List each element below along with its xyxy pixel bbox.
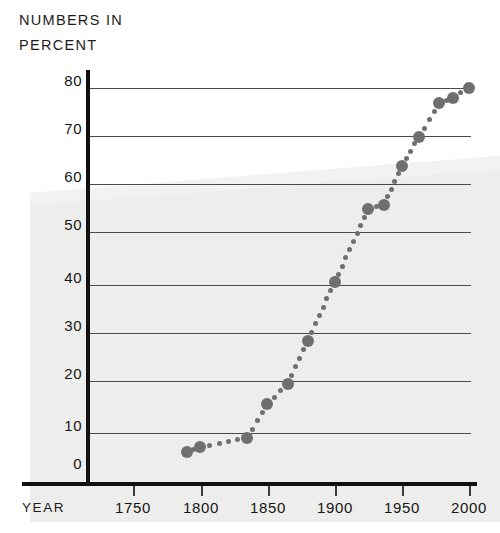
data-point bbox=[378, 199, 390, 211]
data-point bbox=[463, 82, 475, 94]
series-connector-dot bbox=[392, 179, 397, 184]
xtick-label-1850: 1850 bbox=[240, 499, 296, 516]
series-connector-dot bbox=[297, 356, 302, 361]
data-point bbox=[181, 446, 193, 458]
gridline-60 bbox=[88, 184, 471, 185]
xtick-label-1750: 1750 bbox=[105, 499, 161, 516]
data-point bbox=[261, 398, 273, 410]
series-connector-dot bbox=[347, 247, 352, 252]
xtick-label-2000: 2000 bbox=[441, 499, 497, 516]
series-connector-dot bbox=[432, 109, 437, 114]
series-connector-dot bbox=[458, 90, 463, 95]
xtick-2000 bbox=[469, 486, 471, 496]
data-point bbox=[413, 131, 425, 143]
xtick-1750 bbox=[133, 486, 135, 496]
ytick-label-20: 20 bbox=[48, 365, 82, 382]
xtick-1950 bbox=[402, 486, 404, 496]
series-connector-dot bbox=[260, 410, 265, 415]
ytick-label-30: 30 bbox=[48, 317, 82, 334]
gridline-30 bbox=[88, 333, 471, 334]
series-connector-dot bbox=[408, 149, 413, 154]
series-connector-dot bbox=[278, 388, 283, 393]
series-connector-dot bbox=[351, 239, 356, 244]
chart-page: NUMBERS IN PERCENT 80 70 60 50 40 30 20 … bbox=[0, 0, 500, 533]
series-connector-dot bbox=[207, 443, 212, 448]
series-connector-dot bbox=[355, 231, 360, 236]
plot-area: 80 70 60 50 40 30 20 10 0 1750 1800 1850… bbox=[0, 0, 500, 533]
gridline-20 bbox=[88, 381, 471, 382]
x-axis-title: YEAR bbox=[22, 500, 65, 515]
data-point bbox=[282, 378, 294, 390]
series-connector-dot bbox=[340, 264, 345, 269]
ytick-label-70: 70 bbox=[48, 120, 82, 137]
ytick-label-10: 10 bbox=[48, 417, 82, 434]
series-connector-dot bbox=[313, 321, 318, 326]
series-connector-dot bbox=[389, 187, 394, 192]
series-connector-dot bbox=[226, 439, 231, 444]
data-point bbox=[447, 92, 459, 104]
series-connector-dot bbox=[321, 305, 326, 310]
gridline-80 bbox=[88, 88, 471, 89]
series-connector-dot bbox=[255, 418, 260, 423]
series-connector-dot bbox=[328, 288, 333, 293]
series-connector-dot bbox=[217, 441, 222, 446]
xtick-1800 bbox=[201, 486, 203, 496]
data-point bbox=[396, 160, 408, 172]
series-connector-dot bbox=[235, 437, 240, 442]
ytick-label-50: 50 bbox=[48, 216, 82, 233]
gridline-10 bbox=[88, 433, 471, 434]
data-point bbox=[241, 432, 253, 444]
data-point bbox=[194, 441, 206, 453]
series-connector-dot bbox=[396, 171, 401, 176]
ytick-label-40: 40 bbox=[48, 269, 82, 286]
xtick-1900 bbox=[335, 486, 337, 496]
gridline-50 bbox=[88, 232, 471, 233]
data-point bbox=[433, 97, 445, 109]
series-connector-dot bbox=[324, 296, 329, 301]
series-connector-dot bbox=[422, 126, 427, 131]
gridline-40 bbox=[88, 285, 471, 286]
xtick-1850 bbox=[268, 486, 270, 496]
ytick-label-60: 60 bbox=[48, 168, 82, 185]
data-point bbox=[302, 335, 314, 347]
series-connector-dot bbox=[427, 117, 432, 122]
ytick-label-80: 80 bbox=[48, 72, 82, 89]
series-connector-dot bbox=[301, 347, 306, 352]
series-connector-dot bbox=[343, 255, 348, 260]
xtick-label-1950: 1950 bbox=[374, 499, 430, 516]
xtick-label-1800: 1800 bbox=[173, 499, 229, 516]
series-connector-dot bbox=[362, 215, 367, 220]
series-connector-dot bbox=[309, 330, 314, 335]
x-axis bbox=[22, 482, 477, 486]
data-point bbox=[362, 203, 374, 215]
series-connector-dot bbox=[250, 427, 255, 432]
series-connector-dot bbox=[289, 373, 294, 378]
series-connector-dot bbox=[317, 313, 322, 318]
ytick-label-0: 0 bbox=[48, 455, 82, 472]
data-point bbox=[329, 276, 341, 288]
xtick-label-1900: 1900 bbox=[307, 499, 363, 516]
y-axis bbox=[86, 70, 90, 484]
series-connector-dot bbox=[293, 364, 298, 369]
series-connector-dot bbox=[272, 395, 277, 400]
series-connector-dot bbox=[358, 223, 363, 228]
